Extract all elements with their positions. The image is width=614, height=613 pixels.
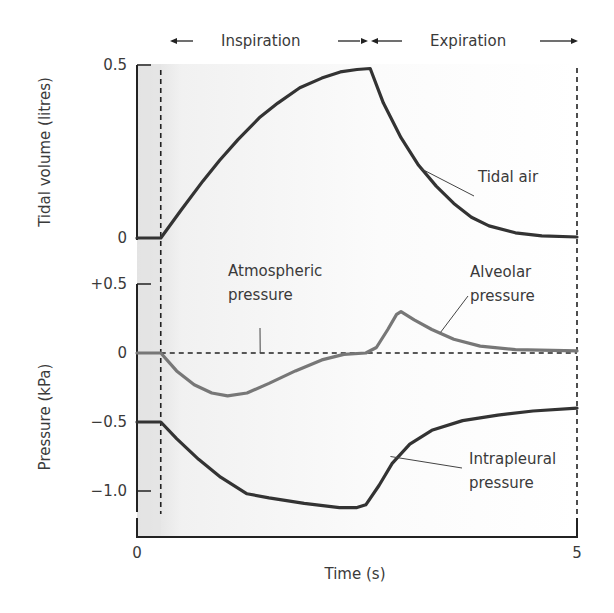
alveolar-pressure-label: pressure xyxy=(470,287,535,305)
pressure-y-tick-label: −1.0 xyxy=(91,482,127,500)
pressure-y-tick-label: −0.5 xyxy=(91,413,127,431)
expiration-right-arrowhead xyxy=(571,38,578,44)
phase-header: Inspiration Expiration xyxy=(170,32,578,50)
inspiration-left-arrowhead xyxy=(170,38,177,44)
intrapleural-pressure-label: pressure xyxy=(469,474,534,492)
pressure-y-tick-label: +0.5 xyxy=(91,275,127,293)
volume-y-tick-label: 0.5 xyxy=(103,56,127,74)
x-axis-title: Time (s) xyxy=(324,565,386,583)
expiration-label: Expiration xyxy=(430,32,506,50)
x-tick-label: 5 xyxy=(572,544,582,562)
respiratory-cycle-chart: Inspiration Expiration 0.50+0.50−0.5−1.0… xyxy=(0,0,614,613)
shaded-region-pre-inspiration xyxy=(137,64,161,537)
volume-axis-title: Tidal volume (litres) xyxy=(36,77,54,228)
volume-y-tick-label: 0 xyxy=(117,229,127,247)
pressure-y-tick-label: 0 xyxy=(117,344,127,362)
tidal-air-label: Tidal air xyxy=(477,168,539,186)
atmospheric-pressure-label: Atmospheric xyxy=(228,262,322,280)
pressure-axis-title: Pressure (kPa) xyxy=(36,364,54,471)
expiration-left-arrowhead xyxy=(371,38,378,44)
inspiration-label: Inspiration xyxy=(221,32,301,50)
alveolar-pressure-label: Alveolar xyxy=(470,263,532,281)
intrapleural-pressure-label: Intrapleural xyxy=(469,450,556,468)
atmospheric-pressure-label: pressure xyxy=(228,286,293,304)
inspiration-right-arrowhead xyxy=(361,38,368,44)
x-tick-label: 0 xyxy=(132,544,142,562)
